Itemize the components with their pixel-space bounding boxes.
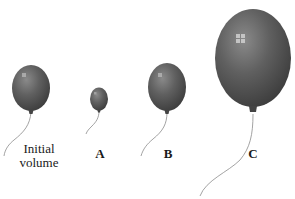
balloon-b	[141, 63, 186, 156]
label-a: A	[92, 147, 108, 161]
label-initial-line2: volume	[12, 156, 66, 170]
label-initial-line1: Initial	[12, 142, 66, 156]
label-initial-volume: Initial volume	[12, 142, 66, 170]
balloon-volume-diagram: Initial volume A B C	[0, 0, 295, 199]
label-c: C	[245, 147, 261, 161]
label-b: B	[160, 147, 176, 161]
balloon-a	[86, 88, 108, 135]
balloon-c	[200, 9, 291, 196]
